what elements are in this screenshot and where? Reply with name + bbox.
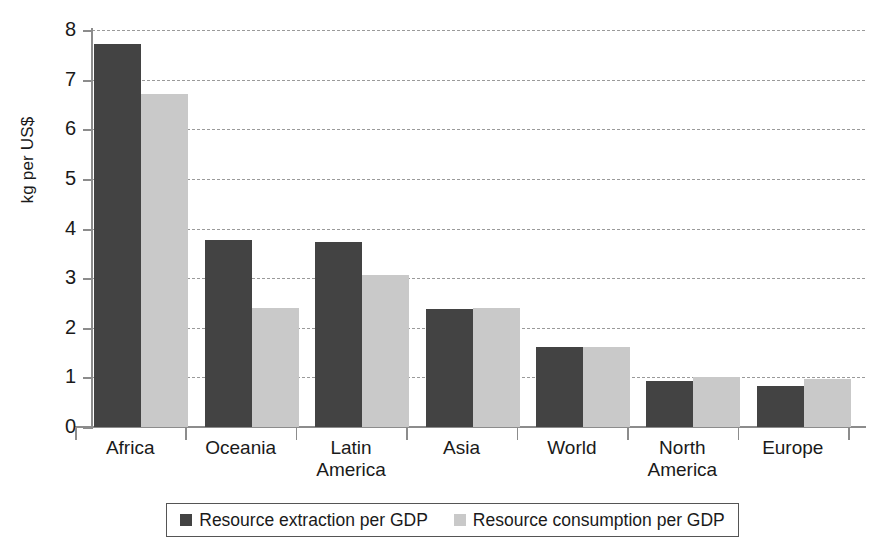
x-axis-category-label-line: North <box>659 437 705 458</box>
y-axis-tick <box>83 129 93 131</box>
y-axis-title: kg per US$ <box>18 90 38 230</box>
gridline <box>92 80 865 81</box>
x-axis-category-label-line: Asia <box>443 437 480 458</box>
y-axis-label: 1 <box>40 366 76 386</box>
legend-entry[interactable]: Resource extraction per GDP <box>180 510 428 531</box>
legend-swatch-icon <box>180 514 192 526</box>
legend-label: Resource consumption per GDP <box>473 510 725 531</box>
y-axis-tick <box>83 229 93 231</box>
y-axis-tick <box>83 377 93 379</box>
gridline <box>92 229 865 230</box>
legend-label: Resource extraction per GDP <box>199 510 428 531</box>
x-axis-category-label-line: Latin <box>330 437 371 458</box>
x-axis-category-label-line: America <box>296 459 406 481</box>
legend-swatch-icon <box>454 514 466 526</box>
bar <box>473 308 520 427</box>
x-axis-category-label-line: World <box>547 437 596 458</box>
bar-chart: kg per US$ 876543210 AfricaOceaniaLatinA… <box>0 0 885 560</box>
y-axis-tick <box>83 30 93 32</box>
gridline <box>92 30 865 31</box>
chart-legend: Resource extraction per GDPResource cons… <box>166 503 739 537</box>
y-axis-tick <box>83 278 93 280</box>
y-axis-label: 6 <box>40 118 76 138</box>
bar <box>252 308 299 427</box>
bar <box>315 242 362 427</box>
y-axis-label: 2 <box>40 317 76 337</box>
y-axis-label: 4 <box>40 218 76 238</box>
y-axis-tick <box>83 427 93 429</box>
legend-entry[interactable]: Resource consumption per GDP <box>454 510 725 531</box>
bar <box>646 381 693 427</box>
bar <box>362 275 409 427</box>
y-axis-label: 7 <box>40 69 76 89</box>
x-axis-category-label: Asia <box>406 437 516 459</box>
bar <box>583 347 630 427</box>
gridline <box>92 179 865 180</box>
bar <box>804 379 851 427</box>
gridline <box>92 129 865 130</box>
x-axis-category-label: LatinAmerica <box>296 437 406 481</box>
y-axis-tick <box>83 328 93 330</box>
x-axis-category-label-line: Oceania <box>205 437 276 458</box>
x-axis-category-label: Africa <box>75 437 185 459</box>
x-axis-tick <box>848 427 850 440</box>
x-axis-category-label: Europe <box>738 437 848 459</box>
bar <box>426 309 473 427</box>
y-axis-label: 8 <box>40 19 76 39</box>
y-axis-label: 0 <box>40 416 76 436</box>
bar <box>536 347 583 427</box>
x-axis-category-label: World <box>517 437 627 459</box>
x-axis-category-label: Oceania <box>185 437 295 459</box>
x-axis-category-label: NorthAmerica <box>627 437 737 481</box>
bar <box>141 94 188 427</box>
y-axis-label: 3 <box>40 267 76 287</box>
x-axis-category-label-line: Africa <box>106 437 155 458</box>
x-axis-category-label-line: America <box>627 459 737 481</box>
bar <box>693 377 740 427</box>
bar <box>94 44 141 427</box>
bar <box>205 240 252 427</box>
x-axis-category-label-line: Europe <box>762 437 823 458</box>
bar <box>757 386 804 427</box>
y-axis-tick <box>83 80 93 82</box>
y-axis-label: 5 <box>40 168 76 188</box>
y-axis-tick <box>83 179 93 181</box>
